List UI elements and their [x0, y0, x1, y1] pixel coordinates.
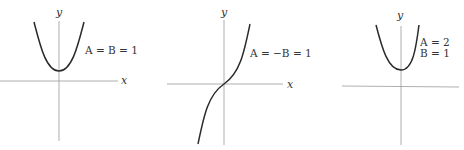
panel-3: y A = 2 B = 1 — [342, 9, 459, 145]
panel-1: y x A = B = 1 — [0, 6, 138, 141]
parameter-annotation: A = −B = 1 — [249, 47, 312, 59]
x-axis-label: x — [287, 78, 294, 91]
curve-cosh-narrow — [376, 25, 419, 70]
parameter-annotation-b: B = 1 — [420, 47, 450, 59]
x-axis — [342, 86, 459, 87]
y-axis-label: y — [220, 6, 228, 19]
figure: y x A = B = 1 y x A = −B = 1 y A = 2 B =… — [0, 0, 464, 150]
panel-2: y x A = −B = 1 — [167, 6, 312, 145]
y-axis-label: y — [55, 6, 63, 19]
y-axis-label: y — [396, 9, 404, 22]
parameter-annotation: A = B = 1 — [84, 44, 138, 56]
x-axis-label: x — [121, 74, 128, 87]
